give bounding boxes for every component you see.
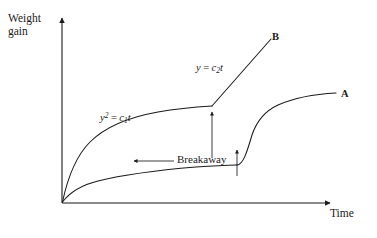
plot-canvas [0,0,377,238]
equation-parabolic-law: y2=c1t [100,112,131,126]
equation-parabolic-leader [148,120,176,124]
x-axis-label: Time [330,207,354,220]
equation-parabolic-operator: = [108,112,119,123]
equation-linear-variable: t [220,62,223,73]
equation-linear-lhs: y [196,62,201,73]
curve-label-a: A [341,88,349,100]
equation-linear-operator: = [201,62,212,73]
y-axis-label: Weightgain [8,12,41,38]
curve-label-b: B [272,31,279,43]
figure-container: Weightgain Time B A y=c2t y2=c1t Breakaw… [0,0,377,238]
y-axis-label-line1: Weight [8,12,41,24]
equation-parabolic-variable: t [128,112,131,123]
curve-a-breakaway-segment [237,93,336,165]
equation-linear-law: y=c2t [196,62,223,75]
y-axis-label-line2: gain [8,25,28,37]
curve-a-parabolic-segment [63,165,238,202]
breakaway-annotation: Breakaway [177,153,226,165]
